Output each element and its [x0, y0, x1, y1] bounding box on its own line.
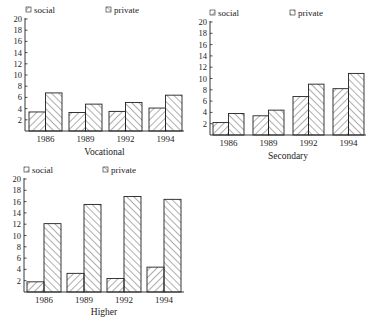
bar-social-1989 — [67, 273, 84, 292]
x-tick-label: 1994 — [157, 134, 176, 144]
x-tick-label: 1992 — [300, 138, 318, 148]
x-tick-label: 1994 — [340, 138, 359, 148]
bar-social-1994 — [149, 108, 166, 131]
chart-canvas: socialprivate246810121416182019861989199… — [0, 0, 377, 322]
y-tick-label: 20 — [199, 17, 208, 27]
y-tick-label: 8 — [17, 242, 21, 252]
legend-swatch-private-icon — [106, 7, 111, 12]
y-tick-label: 12 — [14, 59, 23, 69]
legend-swatch-social-icon — [210, 10, 215, 15]
y-tick-label: 16 — [199, 40, 208, 50]
bar-private-1994 — [166, 95, 183, 131]
legend-label-social: social — [32, 165, 53, 175]
y-tick-label: 4 — [203, 107, 208, 117]
bar-private-1992 — [309, 84, 325, 135]
y-tick-label: 14 — [13, 208, 22, 218]
y-tick-label: 18 — [14, 25, 23, 35]
legend-swatch-private-icon — [103, 167, 108, 172]
y-tick-label: 8 — [18, 81, 22, 91]
bar-social-1986 — [29, 112, 46, 131]
chart-higher: socialprivate246810121416182019861989199… — [13, 165, 185, 317]
legend-swatch-social-icon — [26, 7, 31, 12]
chart-title: Vocational — [84, 147, 125, 157]
x-tick-label: 1992 — [117, 134, 135, 144]
y-tick-label: 12 — [13, 219, 22, 229]
legend-label-private: private — [298, 8, 323, 18]
bar-social-1986 — [213, 123, 229, 135]
bar-social-1986 — [27, 282, 44, 292]
x-tick-label: 1986 — [35, 295, 54, 305]
legend: socialprivate — [24, 165, 136, 175]
chart-title: Secondary — [268, 151, 308, 161]
y-tick-label: 6 — [18, 92, 22, 102]
y-tick-label: 4 — [18, 104, 23, 114]
y-tick-label: 6 — [203, 96, 207, 106]
bar-social-1992 — [107, 278, 124, 292]
bar-private-1994 — [349, 73, 365, 135]
bar-private-1989 — [269, 110, 285, 135]
bar-private-1992 — [124, 197, 141, 292]
x-tick-label: 1994 — [155, 295, 174, 305]
bar-social-1994 — [147, 267, 164, 292]
y-tick-label: 4 — [17, 264, 22, 274]
y-tick-label: 14 — [199, 51, 208, 61]
bar-private-1992 — [126, 102, 143, 131]
bar-private-1994 — [164, 199, 181, 292]
bar-private-1986 — [229, 114, 245, 135]
y-tick-label: 2 — [18, 115, 22, 125]
y-tick-label: 6 — [17, 253, 21, 263]
y-tick-label: 2 — [203, 119, 207, 129]
y-tick-label: 10 — [14, 70, 23, 80]
bar-private-1986 — [44, 224, 61, 292]
legend-label-social: social — [34, 5, 55, 15]
x-tick-label: 1992 — [115, 295, 133, 305]
chart-secondary: socialprivate246810121416182019861989199… — [199, 8, 367, 161]
y-tick-label: 20 — [14, 14, 23, 24]
bar-social-1992 — [293, 97, 309, 135]
x-tick-label: 1986 — [220, 138, 239, 148]
legend-swatch-social-icon — [24, 167, 29, 172]
chart-title: Higher — [91, 307, 118, 317]
y-tick-label: 2 — [17, 276, 21, 286]
legend-swatch-private-icon — [290, 10, 295, 15]
bar-social-1989 — [253, 116, 269, 135]
y-tick-label: 10 — [199, 74, 208, 84]
x-tick-label: 1986 — [37, 134, 56, 144]
bar-private-1989 — [86, 104, 103, 131]
y-tick-label: 14 — [14, 48, 23, 58]
legend-label-private: private — [114, 5, 139, 15]
y-tick-label: 18 — [199, 28, 208, 38]
y-tick-label: 18 — [13, 185, 22, 195]
bar-private-1989 — [84, 204, 101, 292]
bar-private-1986 — [46, 93, 63, 131]
bar-social-1992 — [109, 111, 126, 131]
x-tick-label: 1989 — [75, 295, 94, 305]
y-tick-label: 8 — [203, 85, 207, 95]
legend-label-social: social — [218, 8, 239, 18]
y-tick-label: 10 — [13, 231, 22, 241]
bar-social-1994 — [333, 89, 349, 135]
bar-social-1989 — [69, 113, 86, 131]
legend: socialprivate — [210, 8, 323, 18]
y-tick-label: 20 — [13, 174, 22, 184]
x-tick-label: 1989 — [77, 134, 96, 144]
x-tick-label: 1989 — [260, 138, 279, 148]
chart-vocational: socialprivate246810121416182019861989199… — [14, 5, 185, 157]
y-tick-label: 16 — [13, 197, 22, 207]
y-tick-label: 16 — [14, 36, 23, 46]
legend: socialprivate — [26, 5, 139, 15]
legend-label-private: private — [111, 165, 136, 175]
y-tick-label: 12 — [199, 62, 208, 72]
